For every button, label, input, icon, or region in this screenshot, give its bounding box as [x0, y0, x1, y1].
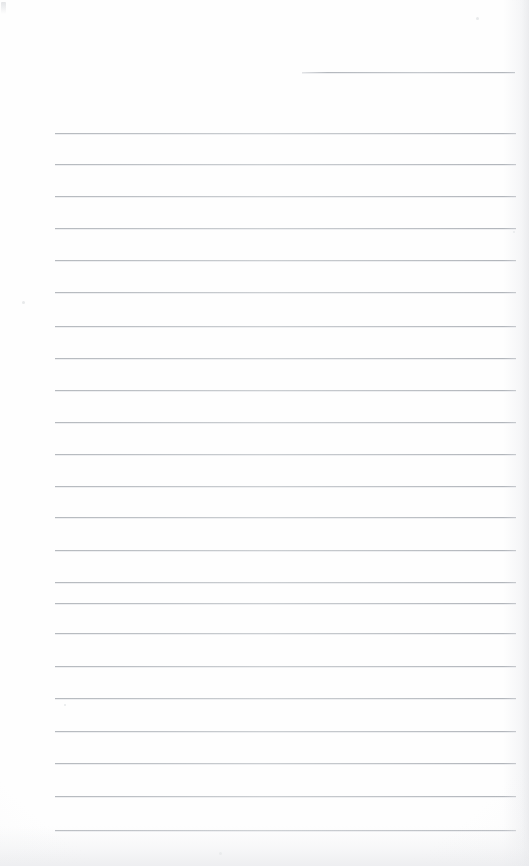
paper-sheet [0, 0, 529, 866]
rule-line-12 [55, 486, 516, 487]
rule-line-7 [55, 326, 516, 327]
rule-line-21 [55, 763, 516, 764]
rule-line-4 [55, 228, 516, 229]
rule-line-2 [55, 164, 516, 165]
rule-line-1 [55, 133, 516, 134]
rule-line-3 [55, 196, 516, 197]
rule-line-14 [55, 550, 516, 551]
rule-line-9 [55, 390, 516, 391]
rule-line-8 [55, 358, 516, 359]
rule-line-22 [55, 796, 516, 797]
rule-line-18 [55, 666, 516, 667]
rule-line-10 [55, 422, 516, 423]
rule-line-19 [55, 698, 516, 699]
rule-line-17 [55, 633, 516, 634]
scanned-page [0, 0, 529, 866]
rule-line-11 [55, 454, 516, 455]
rule-line-13 [55, 517, 516, 518]
rule-line-5 [55, 260, 516, 261]
rule-line-23 [55, 830, 516, 831]
rule-line-partial-top [302, 72, 515, 73]
rule-line-6 [55, 292, 516, 293]
rule-line-15 [55, 582, 516, 583]
rule-line-16 [55, 603, 516, 604]
rule-line-20 [55, 731, 516, 732]
